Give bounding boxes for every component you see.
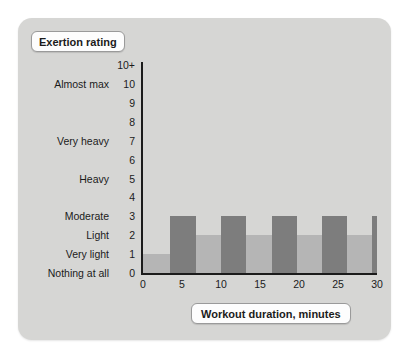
- x-axis-tick-label: 10: [206, 278, 236, 290]
- y-axis-tick: Very heavy7: [0, 134, 135, 148]
- y-axis-tick-number: 2: [115, 229, 135, 241]
- y-axis-scale-label: Heavy: [79, 173, 109, 185]
- bar-segment: [170, 216, 196, 273]
- y-axis-tick-number: 8: [115, 116, 135, 128]
- y-axis-tick: Light2: [0, 228, 135, 242]
- x-axis-tick-label: 20: [284, 278, 314, 290]
- y-axis-tick-number: 10+: [115, 59, 135, 71]
- y-axis-tick: 9: [0, 96, 135, 110]
- bar-segment: [143, 254, 170, 273]
- y-axis-scale-label: Very light: [66, 248, 109, 260]
- y-axis-scale-label: Moderate: [65, 210, 109, 222]
- x-axis-tick-label: 30: [362, 278, 392, 290]
- bar-segment: [347, 235, 372, 273]
- bar-segment: [297, 235, 322, 273]
- y-axis-tick: Nothing at all0: [0, 266, 135, 280]
- bar-segment: [322, 216, 348, 273]
- y-axis-scale-label: Nothing at all: [48, 267, 109, 279]
- bar-group: [141, 62, 377, 273]
- bar-segment: [272, 216, 297, 273]
- y-axis-tick: 6: [0, 153, 135, 167]
- y-axis-tick: Almost max10: [0, 77, 135, 91]
- x-axis-tick-label: 5: [167, 278, 197, 290]
- y-axis-tick-number: 6: [115, 154, 135, 166]
- y-axis-tick: Heavy5: [0, 172, 135, 186]
- bar-segment: [372, 216, 377, 273]
- x-axis-tick-label: 0: [128, 278, 158, 290]
- chart-figure: Exertion rating 10+Almost max1098Very he…: [0, 0, 410, 357]
- y-axis-title: Exertion rating: [31, 31, 125, 52]
- y-axis-tick-number: 7: [115, 135, 135, 147]
- y-axis-scale-label: Light: [86, 229, 109, 241]
- y-axis-scale-label: Very heavy: [57, 135, 109, 147]
- x-axis-tick-label: 25: [323, 278, 353, 290]
- x-axis-title: Workout duration, minutes: [191, 303, 351, 324]
- y-axis-tick: 10+: [0, 58, 135, 72]
- y-axis-tick: 4: [0, 190, 135, 204]
- y-axis-scale-label: Almost max: [54, 78, 109, 90]
- bar-segment: [221, 216, 246, 273]
- y-axis-tick: Moderate3: [0, 209, 135, 223]
- bar-segment: [246, 235, 272, 273]
- bar-segment: [196, 235, 221, 273]
- y-axis-tick-number: 3: [115, 210, 135, 222]
- y-axis-tick: 8: [0, 115, 135, 129]
- y-axis-tick-number: 5: [115, 173, 135, 185]
- x-axis-line: [141, 273, 377, 275]
- y-axis-tick-number: 4: [115, 191, 135, 203]
- y-axis-tick-number: 9: [115, 97, 135, 109]
- y-axis-tick: Very light1: [0, 247, 135, 261]
- y-axis-tick-number: 10: [115, 78, 135, 90]
- y-axis-tick-number: 1: [115, 248, 135, 260]
- x-axis-tick-label: 15: [245, 278, 275, 290]
